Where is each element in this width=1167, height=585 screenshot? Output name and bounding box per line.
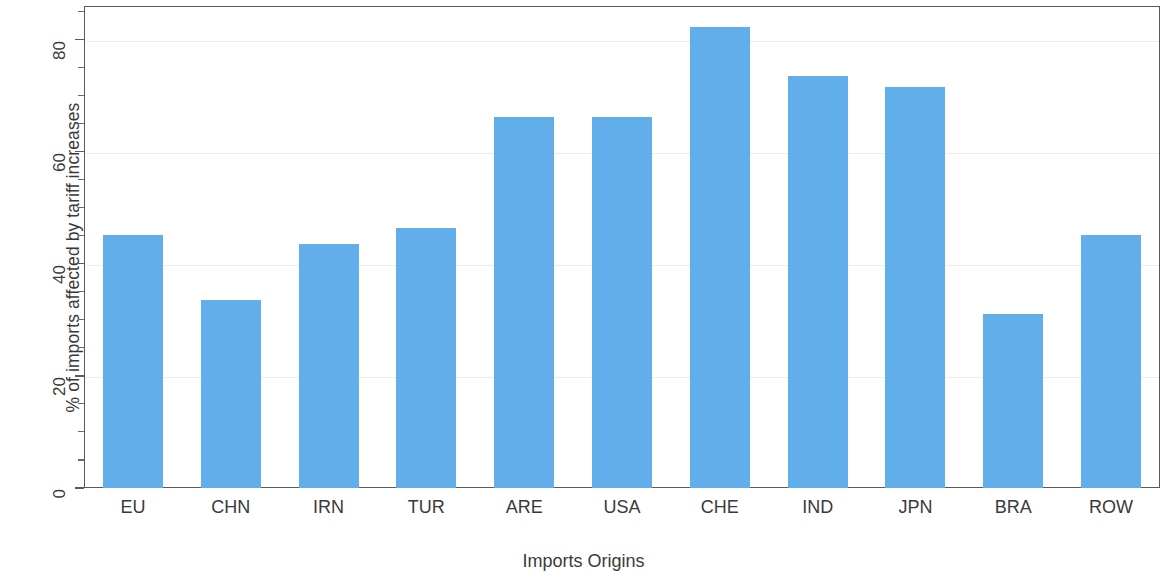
x-axis-title: Imports Origins (0, 551, 1167, 572)
bar-are (494, 117, 554, 488)
bar-che (690, 27, 750, 488)
y-tick-label: 60 (50, 153, 70, 199)
y-tick-label-text: 20 (50, 377, 70, 396)
y-tick-major (75, 375, 84, 376)
y-tick-major (75, 39, 84, 40)
y-tick-label: 0 (50, 489, 70, 535)
bar-usa (592, 117, 652, 488)
y-tick-label-text: 0 (50, 489, 70, 498)
y-tick-label: 80 (50, 41, 70, 87)
bar-eu (103, 235, 163, 488)
bar-jpn (885, 87, 945, 488)
y-tick-label-text: 80 (50, 41, 70, 60)
bar-bra (983, 314, 1043, 488)
bar-chart: % of imports affected by tariff increase… (0, 0, 1167, 585)
bars-layer (84, 6, 1160, 488)
y-tick-major (75, 487, 84, 488)
y-tick-label: 20 (50, 377, 70, 423)
y-tick-label-text: 40 (50, 265, 70, 284)
y-tick-major (75, 151, 84, 152)
bar-chn (201, 300, 261, 488)
x-tick-label-row: ROW (1051, 497, 1167, 518)
y-tick-major (75, 263, 84, 264)
bar-row (1081, 235, 1141, 488)
y-tick-label: 40 (50, 265, 70, 311)
bar-tur (396, 228, 456, 488)
bar-ind (788, 76, 848, 488)
bar-irn (299, 244, 359, 488)
y-tick-label-text: 60 (50, 153, 70, 172)
